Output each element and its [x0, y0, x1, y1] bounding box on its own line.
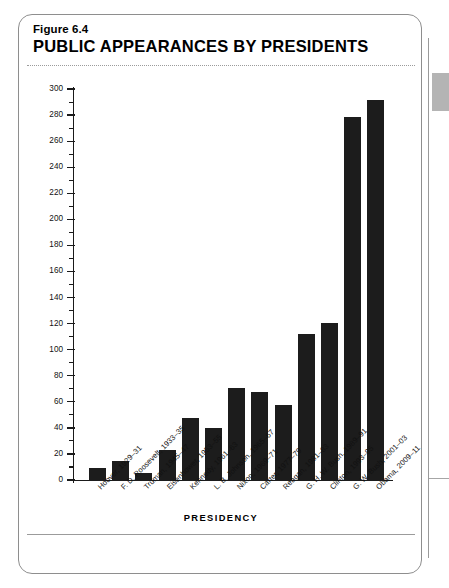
y-tick-label: 220 — [37, 188, 63, 197]
y-tick-label: 160 — [37, 266, 63, 275]
x-axis-title: PRESIDENCY — [19, 513, 422, 523]
y-tick-label: 260 — [37, 136, 63, 145]
page-edge-tab — [432, 73, 449, 111]
figure-number: Figure 6.4 — [33, 23, 88, 35]
y-tick-label: 200 — [37, 214, 63, 223]
y-tick-label: 280 — [37, 110, 63, 119]
title-divider — [27, 65, 415, 66]
y-tick-label: 120 — [37, 319, 63, 328]
bottom-divider — [27, 534, 415, 535]
y-tick-label: 100 — [37, 345, 63, 354]
y-tick-label: 140 — [37, 293, 63, 302]
figure-title: PUBLIC APPEARANCES BY PRESIDENTS — [33, 37, 369, 56]
page-edge-rule — [428, 38, 429, 558]
y-tick-label: 40 — [37, 423, 63, 432]
bar-series — [73, 89, 393, 481]
y-tick-label: 240 — [37, 162, 63, 171]
figure-page: Figure 6.4 PUBLIC APPEARANCES BY PRESIDE… — [18, 14, 422, 574]
bar — [344, 117, 361, 481]
y-tick-label: 0 — [37, 475, 63, 484]
page-edge-tick — [429, 478, 449, 479]
y-tick-label: 80 — [37, 371, 63, 380]
y-tick-label: 180 — [37, 240, 63, 249]
bar — [367, 100, 384, 481]
y-tick-label: 20 — [37, 449, 63, 458]
y-tick-label: 60 — [37, 397, 63, 406]
y-tick-label: 300 — [37, 84, 63, 93]
